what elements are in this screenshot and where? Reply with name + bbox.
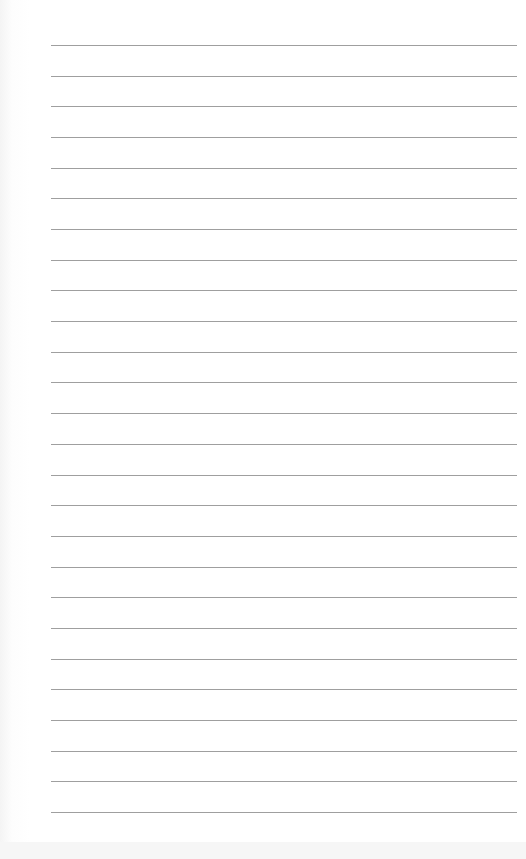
ruled-line [51,781,517,782]
ruled-line [51,290,517,291]
ruled-line [51,536,517,537]
ruled-line [51,751,517,752]
ruled-line [51,352,517,353]
lined-paper-page [0,0,526,859]
ruled-line [51,198,517,199]
ruled-line [51,505,517,506]
ruled-line [51,413,517,414]
ruled-line [51,812,517,813]
ruled-line [51,720,517,721]
ruled-line [51,137,517,138]
ruled-line [51,45,517,46]
ruled-line [51,597,517,598]
ruled-line [51,229,517,230]
ruled-line [51,106,517,107]
ruled-line [51,260,517,261]
ruled-line [51,321,517,322]
ruled-line [51,475,517,476]
ruled-line [51,168,517,169]
page-bottom-edge [0,842,526,859]
ruled-line [51,382,517,383]
ruled-line [51,444,517,445]
ruled-line [51,628,517,629]
ruled-line [51,567,517,568]
ruled-line [51,659,517,660]
ruled-line [51,76,517,77]
ruled-line [51,689,517,690]
